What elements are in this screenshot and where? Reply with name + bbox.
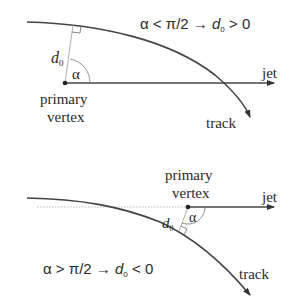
bottom-d0-label: d0	[162, 215, 174, 233]
top-condition: α < π/2 → d0 > 0	[140, 15, 250, 34]
top-track-label: track	[206, 115, 236, 131]
bottom-track-curve	[27, 198, 250, 295]
bottom-primary-vertex-dot	[186, 205, 191, 210]
bottom-track-label: track	[239, 266, 269, 282]
bottom-alpha-label: α	[189, 210, 197, 225]
top-primary-vertex-dot	[63, 81, 68, 86]
top-right-angle-marker	[72, 26, 81, 33]
bottom-jet-label: jet	[261, 189, 278, 205]
bottom-condition: α > π/2 → d0 < 0	[43, 260, 153, 279]
bottom-vertex-label-line2: vertex	[172, 185, 210, 201]
top-vertex-label-line2: vertex	[47, 109, 85, 125]
top-vertex-label-line1: primary	[40, 91, 88, 107]
top-alpha-label: α	[72, 66, 80, 82]
top-jet-label: jet	[261, 65, 278, 81]
bottom-panel: primary vertex jet α d0 track α > π/2 → …	[27, 167, 278, 295]
bottom-vertex-label-line1: primary	[165, 167, 213, 183]
top-d0-label: d0	[51, 49, 64, 68]
top-panel: d0 α primary vertex jet track α < π/2 → …	[27, 15, 278, 131]
impact-parameter-diagram: d0 α primary vertex jet track α < π/2 → …	[0, 0, 302, 305]
